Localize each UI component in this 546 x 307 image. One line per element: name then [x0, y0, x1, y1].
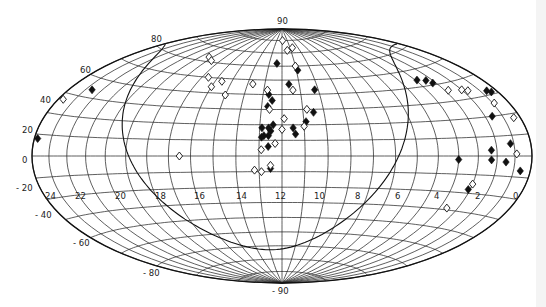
dec-label-minus-40: - 40 — [35, 210, 52, 220]
ra-label-20: 20 — [115, 191, 126, 201]
scan-edge — [536, 0, 546, 307]
filled-diamond-marker — [423, 76, 429, 84]
ra-label-0: 0 — [513, 191, 518, 201]
dec-label-minus-20: - 20 — [16, 183, 33, 193]
open-diamond-marker — [222, 91, 228, 99]
filled-diamond-marker — [269, 96, 275, 104]
open-diamond-marker — [469, 180, 475, 188]
filled-diamond-marker — [488, 156, 494, 164]
dec-label-minus-80: - 80 — [143, 268, 160, 278]
ra-label-6: 6 — [395, 191, 400, 201]
ra-label-24: 24 — [45, 191, 56, 201]
ra-label-16: 16 — [194, 191, 205, 201]
open-diamond-marker — [176, 152, 182, 160]
ra-label-10: 10 — [314, 191, 325, 201]
dec-label-60: 60 — [80, 65, 91, 75]
open-diamond-marker — [250, 80, 256, 88]
all-sky-map: 90 80 60 40 20 0 - 20 - 40 - 60 - 80 - 9… — [0, 0, 546, 307]
filled-diamond-marker — [517, 167, 523, 175]
open-diamond-marker — [205, 73, 211, 81]
ra-label-18: 18 — [155, 191, 166, 201]
filled-diamond-marker — [430, 79, 436, 87]
open-diamond-marker — [279, 37, 285, 45]
ra-label-12: 12 — [275, 191, 286, 201]
dec-label-80: 80 — [151, 34, 162, 44]
filled-diamond-marker — [488, 146, 494, 154]
open-diamond-marker — [458, 86, 464, 94]
open-diamond-marker — [251, 166, 257, 174]
filled-diamond-marker — [507, 140, 513, 148]
sky-map-figure: 90 80 60 40 20 0 - 20 - 40 - 60 - 80 - 9… — [0, 0, 546, 307]
open-diamond-marker — [491, 99, 497, 107]
filled-diamond-marker — [89, 86, 95, 94]
ra-label-8: 8 — [355, 191, 360, 201]
filled-diamond-marker — [503, 158, 509, 166]
open-diamond-marker — [444, 204, 450, 212]
open-diamond-marker — [290, 86, 296, 94]
filled-diamond-marker — [286, 80, 292, 88]
open-diamond-marker — [511, 114, 517, 122]
dec-label-90: 90 — [277, 16, 288, 26]
open-diamond-marker — [279, 125, 285, 133]
coordinate-grid — [32, 29, 532, 283]
dec-label-minus-90: - 90 — [272, 286, 289, 296]
filled-diamond-marker — [265, 143, 271, 151]
dec-label-minus-60: - 60 — [73, 238, 90, 248]
dec-label-0: 0 — [22, 155, 27, 165]
ra-label-22: 22 — [75, 191, 86, 201]
data-markers — [34, 37, 523, 213]
filled-diamond-marker — [489, 112, 495, 120]
dec-label-40: 40 — [40, 95, 51, 105]
ra-label-4: 4 — [434, 191, 439, 201]
filled-diamond-marker — [311, 86, 317, 94]
open-diamond-marker — [304, 105, 310, 113]
filled-diamond-marker — [465, 185, 471, 193]
ra-label-14: 14 — [236, 191, 247, 201]
dec-label-20: 20 — [22, 125, 33, 135]
open-diamond-marker — [445, 86, 451, 94]
filled-diamond-marker — [455, 156, 461, 164]
ra-label-2: 2 — [475, 191, 480, 201]
